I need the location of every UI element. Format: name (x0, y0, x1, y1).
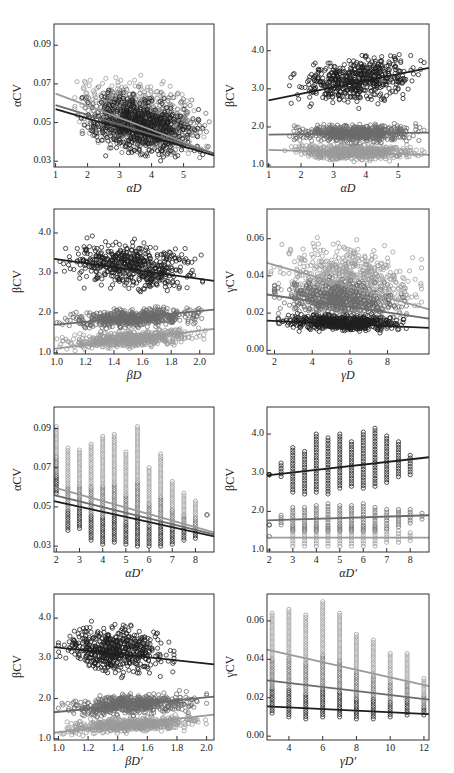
x-tick-label: 3 (108, 169, 132, 180)
y-tick-label: 3.0 (252, 82, 265, 93)
y-tick-label: 1.0 (39, 732, 52, 743)
y-tick-label: 0.05 (34, 500, 52, 511)
x-tick-label: 1.8 (165, 742, 189, 753)
y-tick-label: 0.04 (247, 269, 265, 280)
plot-area (267, 209, 429, 354)
y-tick-label: 4.0 (39, 226, 52, 237)
x-tick-label: 6 (137, 554, 161, 565)
x-tick-label: 6 (311, 742, 335, 753)
x-tick-label: 1.0 (45, 356, 69, 367)
y-axis-label: βCV (223, 464, 238, 494)
scatter-points (267, 426, 424, 548)
x-tick-label: 1.2 (73, 356, 97, 367)
x-tick-label: 3 (68, 554, 92, 565)
panel-gammaCV-vs-gammaDprime: 46810120.000.020.040.06γCVγD′ (267, 594, 429, 740)
y-tick-label: 2.0 (39, 306, 52, 317)
y-axis-label: γCV (223, 266, 238, 296)
x-tick-label: 1.2 (76, 742, 100, 753)
y-axis-label: γCV (223, 652, 238, 682)
y-tick-label: 0.05 (34, 116, 52, 127)
x-tick-label: 2.0 (188, 356, 212, 367)
y-tick-label: 1.0 (252, 158, 265, 169)
x-tick-label: 8 (376, 356, 400, 367)
y-tick-label: 3.0 (39, 266, 52, 277)
panel-alphaCV-vs-alphaDprime: 23456780.030.050.070.09αCVαD′ (54, 407, 214, 552)
scatter-points (283, 53, 427, 164)
y-axis-label: αCV (10, 464, 25, 494)
scatter-points (55, 234, 208, 353)
y-tick-label: 0.09 (34, 422, 52, 433)
x-tick-label: 5 (114, 554, 138, 565)
y-tick-label: 2.0 (252, 120, 265, 131)
x-axis-label: βD′ (119, 754, 149, 769)
y-tick-label: 0.00 (247, 729, 265, 740)
panel-gammaCV-vs-gammaD: 24680.000.020.040.06γCVγD (267, 209, 429, 354)
y-axis-label: αCV (10, 80, 25, 110)
y-tick-label: 1.0 (252, 543, 265, 554)
x-tick-label: 6 (338, 356, 362, 367)
y-axis-label: βCV (223, 80, 238, 110)
x-axis-label: βD (119, 368, 149, 383)
panel-betaCV-vs-betaDprime: 1.01.21.41.61.82.01.02.03.04.0βCVβD′ (54, 594, 214, 740)
x-tick-label: 5 (172, 169, 196, 180)
y-tick-label: 0.07 (34, 461, 52, 472)
x-tick-label: 1.6 (135, 742, 159, 753)
y-tick-label: 0.02 (247, 691, 265, 702)
x-tick-label: 4 (140, 169, 164, 180)
x-tick-label: 2 (257, 554, 281, 565)
x-axis-label: γD (333, 368, 363, 383)
x-tick-label: 2 (289, 169, 313, 180)
x-axis-label: αD′ (333, 566, 363, 581)
y-tick-label: 0.09 (34, 38, 52, 49)
x-tick-label: 4 (354, 169, 378, 180)
y-tick-label: 4.0 (252, 44, 265, 55)
x-tick-label: 2.0 (195, 742, 219, 753)
x-tick-label: 4 (91, 554, 115, 565)
x-tick-label: 12 (412, 742, 436, 753)
x-tick-label: 7 (160, 554, 184, 565)
plot-area (54, 24, 214, 167)
plot-area (54, 407, 214, 552)
y-tick-label: 0.00 (247, 343, 265, 354)
x-tick-label: 2 (76, 169, 100, 180)
x-tick-label: 1.4 (106, 742, 130, 753)
x-tick-label: 4 (300, 356, 324, 367)
x-tick-label: 2 (44, 554, 68, 565)
panel-betaCV-vs-betaD: 1.01.21.41.61.82.01.02.03.04.0βCVβD (54, 209, 214, 354)
x-tick-label: 1 (44, 169, 68, 180)
x-tick-label: 4 (277, 742, 301, 753)
y-tick-label: 0.07 (34, 77, 52, 88)
panel-betaCV-vs-alphaDprime: 23456781.02.03.04.0βCVαD′ (267, 407, 429, 552)
y-tick-label: 4.0 (252, 427, 265, 438)
y-tick-label: 0.03 (34, 154, 52, 165)
y-axis-label: βCV (10, 652, 25, 682)
fit-line-series-dark (54, 501, 214, 536)
y-tick-label: 1.0 (39, 346, 52, 357)
x-tick-label: 1.6 (131, 356, 155, 367)
scatter-points (56, 619, 208, 738)
x-tick-label: 8 (398, 554, 422, 565)
x-tick-label: 3 (281, 554, 305, 565)
x-axis-label: αD (119, 181, 149, 196)
x-axis-label: γD′ (333, 754, 363, 769)
y-axis-label: βCV (10, 266, 25, 296)
x-tick-label: 1.0 (46, 742, 70, 753)
x-tick-label: 1 (257, 169, 281, 180)
plot-area (54, 594, 214, 740)
x-tick-label: 1.8 (159, 356, 183, 367)
x-tick-label: 10 (378, 742, 402, 753)
x-tick-label: 1.4 (102, 356, 126, 367)
y-tick-label: 0.06 (247, 614, 265, 625)
y-tick-label: 2.0 (252, 504, 265, 515)
plot-area (54, 209, 214, 354)
x-tick-label: 8 (344, 742, 368, 753)
y-tick-label: 3.0 (252, 466, 265, 477)
y-tick-label: 4.0 (39, 611, 52, 622)
y-tick-label: 3.0 (39, 651, 52, 662)
plot-area (267, 24, 429, 167)
x-axis-label: αD′ (119, 566, 149, 581)
panel-alphaCV-vs-alphaD: 123450.030.050.070.09αCVαD (54, 24, 214, 167)
x-tick-label: 7 (375, 554, 399, 565)
panel-betaCV-vs-alphaD: 123451.02.03.04.0βCVαD (267, 24, 429, 167)
plot-area (267, 407, 429, 552)
